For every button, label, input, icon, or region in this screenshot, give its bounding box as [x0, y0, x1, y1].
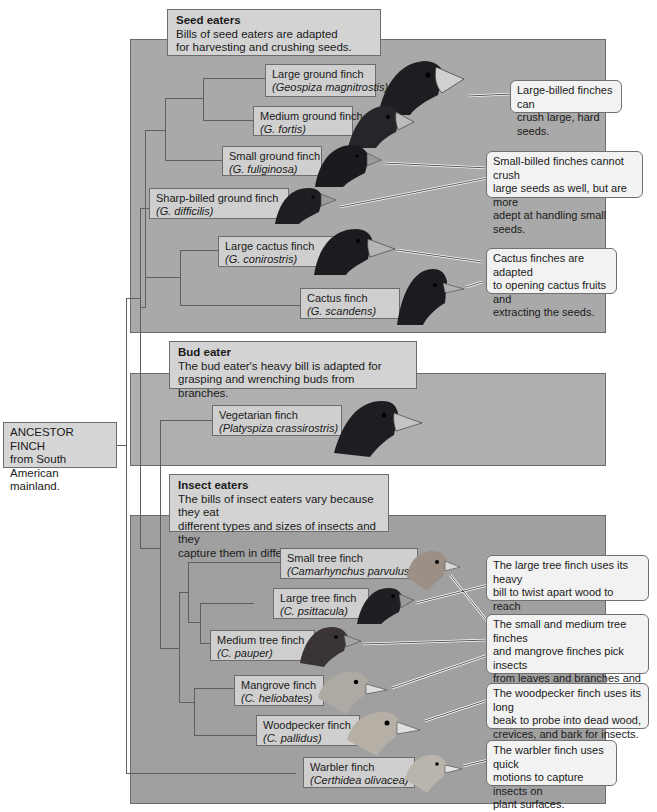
seed-eaters-desc-2: for harvesting and crushing seeds.: [176, 41, 372, 55]
callout-cactus: Cactus finches are adapted to opening ca…: [486, 248, 617, 294]
species-label-cactus-finch: Cactus finch (G. scandens): [300, 288, 400, 319]
callout-text: The small and medium tree finches: [493, 618, 642, 645]
tree-branch: [140, 307, 146, 308]
callout-text: crush large, hard seeds.: [517, 111, 615, 138]
tree-branch: [160, 420, 161, 648]
seed-eaters-title: Seed eaters: [176, 14, 372, 28]
insect-eaters-desc-1: The bills of insect eaters vary because …: [178, 493, 380, 520]
callout-large-tree: The large tree finch uses its heavy bill…: [486, 555, 649, 601]
tree-branch: [165, 98, 166, 160]
species-label-large-ground-finch: Large ground finch (Geospiza magnitrosti…: [265, 64, 376, 97]
callout-text: adept at handling small seeds.: [493, 209, 636, 236]
insect-eaters-title: Insect eaters: [178, 479, 380, 493]
callout-text: The woodpecker finch uses its long: [493, 687, 642, 714]
species-name: Vegetarian finch: [219, 409, 298, 421]
species-sci: (Camarhynchus parvulus): [287, 565, 411, 578]
ancestor-line-1: ANCESTOR FINCH: [10, 426, 110, 453]
small-tree-finch-icon: [405, 547, 461, 591]
tree-branch: [188, 562, 280, 563]
sharp-billed-ground-finch-icon: [273, 186, 337, 226]
warbler-finch-icon: [403, 753, 463, 793]
tree-branch: [145, 130, 165, 131]
tree-trunk: [126, 298, 127, 773]
callout-text: Small-billed finches cannot crush: [493, 155, 636, 182]
tree-branch: [180, 305, 300, 306]
callout-text: plant surfaces.: [493, 798, 610, 812]
callout-text: motions to capture insects on: [493, 771, 610, 798]
species-sci: (Platyspiza crassirostris): [219, 422, 335, 435]
callout-text: The warbler finch uses quick: [493, 744, 610, 771]
callout-text: bill to twist apart wood to reach: [493, 586, 642, 613]
tree-branch: [194, 688, 195, 735]
tree-branch: [200, 603, 254, 604]
species-label-mangrove-finch: Mangrove finch (C. heliobates): [234, 675, 324, 706]
callout-large-billed: Large-billed finches can crush large, ha…: [510, 80, 622, 113]
insect-eaters-desc-2: different types and sizes of insects and…: [178, 520, 380, 547]
species-label-medium-ground-finch: Medium ground finch (G. fortis): [253, 106, 353, 136]
callout-text: extracting the seeds.: [493, 306, 610, 320]
large-tree-finch-icon: [355, 586, 415, 626]
species-sci: (G. fuliginosa): [229, 163, 315, 176]
tree-branch: [160, 648, 180, 649]
ancestor-finch-box: ANCESTOR FINCH from South American mainl…: [3, 422, 117, 468]
species-name: Small tree finch: [287, 552, 363, 564]
species-name: Woodpecker finch: [263, 719, 351, 731]
seed-eaters-desc-1: Bills of seed eaters are adapted: [176, 28, 372, 42]
callout-text: and mangrove finches pick insects: [493, 645, 642, 672]
species-name: Large cactus finch: [225, 240, 314, 252]
insect-eaters-header: Insect eaters The bills of insect eaters…: [169, 474, 389, 532]
tree-branch: [165, 98, 203, 99]
callout-warbler: The warbler finch uses quick motions to …: [486, 740, 617, 786]
species-name: Sharp-billed ground finch: [156, 192, 278, 204]
tree-branch: [188, 622, 200, 623]
vegetarian-finch-icon: [332, 395, 426, 459]
callout-small-billed: Small-billed finches cannot crush large …: [486, 151, 643, 198]
tree-branch: [126, 298, 140, 299]
tree-branch: [194, 688, 234, 689]
tree-branch: [160, 420, 212, 421]
callout-text: The large tree finch uses its heavy: [493, 559, 642, 586]
tree-branch: [194, 735, 256, 736]
callout-small-medium-mangrove: The small and medium tree finches and ma…: [486, 614, 649, 674]
callout-text: large seeds as well, but are more: [493, 182, 636, 209]
callout-text: Large-billed finches can: [517, 84, 615, 111]
tree-branch: [203, 120, 253, 121]
tree-branch: [180, 250, 218, 251]
species-name: Large ground finch: [272, 68, 364, 80]
species-name: Mangrove finch: [241, 679, 316, 691]
tree-branch: [203, 78, 265, 79]
species-label-sharp-billed-ground-finch: Sharp-billed ground finch (G. difficilis…: [149, 188, 289, 219]
species-name: Cactus finch: [307, 292, 368, 304]
bud-eater-header: Bud eater The bud eater's heavy bill is …: [169, 341, 417, 389]
small-ground-finch-icon: [313, 143, 383, 189]
callout-woodpecker: The woodpecker finch uses its long beak …: [486, 683, 649, 729]
seed-eaters-header: Seed eaters Bills of seed eaters are ada…: [167, 9, 381, 56]
callout-text: beak to probe into dead wood,: [493, 714, 642, 728]
tree-branch: [200, 643, 210, 644]
callout-text: Cactus finches are adapted: [493, 252, 610, 279]
tree-branch: [126, 773, 296, 774]
woodpecker-finch-icon: [345, 710, 421, 758]
callout-text: crevices, and bark for insects.: [493, 728, 642, 742]
bud-eater-title: Bud eater: [178, 346, 408, 360]
ancestor-line-2: from South American: [10, 453, 110, 480]
species-sci: (Geospiza magnitrostis): [272, 81, 369, 94]
species-label-small-tree-finch: Small tree finch (Camarhynchus parvulus): [280, 548, 418, 579]
species-sci: (C. pallidus): [263, 732, 353, 745]
species-label-warbler-finch: Warbler finch (Certhidea olivacea): [303, 757, 415, 788]
medium-tree-finch-icon: [298, 625, 362, 669]
tree-branch: [179, 592, 180, 702]
tree-branch: [180, 250, 181, 305]
cactus-finch-icon: [395, 265, 465, 327]
tree-trunk: [140, 208, 141, 548]
bud-eater-desc-1: The bud eater's heavy bill is adapted fo…: [178, 360, 408, 374]
tree-branch: [200, 603, 201, 643]
species-label-small-ground-finch: Small ground finch (G. fuliginosa): [222, 146, 322, 176]
species-sci: (G. scandens): [307, 305, 393, 318]
tree-branch: [188, 562, 189, 622]
tree-branch: [140, 548, 160, 549]
callout-text: to opening cactus fruits and: [493, 279, 610, 306]
species-sci: (C. pauper): [217, 647, 308, 660]
species-sci: (G. difficilis): [156, 205, 282, 218]
ancestor-line-3: mainland.: [10, 480, 110, 494]
